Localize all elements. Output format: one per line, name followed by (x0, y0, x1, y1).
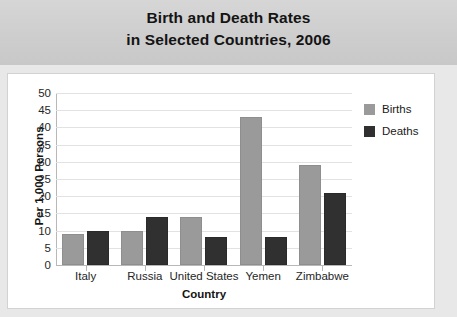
y-tick-label: 50 (38, 87, 51, 99)
title-band: Birth and Death Rates in Selected Countr… (0, 0, 457, 65)
x-tick-label: Yemen (245, 270, 280, 282)
x-tick-label: Italy (75, 270, 96, 282)
bar-births-yemen[interactable] (240, 117, 262, 265)
bar-group: Zimbabwe (293, 93, 352, 265)
bar-deaths-italy[interactable] (87, 231, 109, 265)
bar-births-italy[interactable] (62, 234, 84, 265)
y-tick-label: 30 (38, 156, 51, 168)
page-title-line-2: in Selected Countries, 2006 (0, 29, 457, 51)
y-tick-label: 10 (38, 225, 51, 237)
bar-deaths-russia[interactable] (146, 217, 168, 265)
chart-legend: Births Deaths (364, 98, 418, 142)
bar-group: United States (174, 93, 233, 265)
chart-panel: Per 1,000 Persons 05101520253035404550It… (7, 73, 435, 309)
page-title: Birth and Death Rates in Selected Countr… (0, 7, 457, 51)
bar-deaths-united-states[interactable] (205, 237, 227, 265)
x-tick-label: United States (169, 270, 238, 282)
page-title-line-1: Birth and Death Rates (0, 7, 457, 29)
legend-label-deaths: Deaths (382, 125, 418, 137)
x-axis-title: Country (56, 288, 352, 300)
x-tick-label: Zimbabwe (296, 270, 349, 282)
plot-area: 05101520253035404550ItalyRussiaUnited St… (56, 93, 352, 265)
legend-swatch-deaths (364, 126, 375, 137)
bar-group: Italy (56, 93, 115, 265)
y-tick-label: 20 (38, 190, 51, 202)
y-tick-label: 0 (45, 259, 51, 271)
legend-item-deaths: Deaths (364, 120, 418, 142)
bar-deaths-yemen[interactable] (265, 237, 287, 265)
y-tick-label: 5 (45, 242, 51, 254)
bar-births-united-states[interactable] (180, 217, 202, 265)
y-tick-label: 25 (38, 173, 51, 185)
chart-screenshot: Birth and Death Rates in Selected Countr… (0, 0, 457, 317)
bar-group: Russia (115, 93, 174, 265)
legend-swatch-births (364, 104, 375, 115)
y-tick-label: 35 (38, 139, 51, 151)
y-tick-label: 45 (38, 104, 51, 116)
bar-deaths-zimbabwe[interactable] (324, 193, 346, 265)
bar-births-zimbabwe[interactable] (299, 165, 321, 265)
legend-label-births: Births (382, 103, 411, 115)
x-tick-label: Russia (127, 270, 162, 282)
y-tick-label: 40 (38, 121, 51, 133)
y-tick-label: 15 (38, 207, 51, 219)
bar-group: Yemen (234, 93, 293, 265)
bar-births-russia[interactable] (121, 231, 143, 265)
legend-item-births: Births (364, 98, 418, 120)
